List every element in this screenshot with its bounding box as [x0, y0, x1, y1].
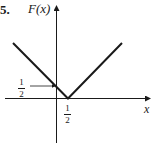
frac-numerator: 1	[19, 78, 24, 87]
x-tick-label: 1 2	[64, 104, 71, 125]
function-curve	[13, 43, 122, 99]
y-intercept-label: 1 2	[18, 78, 25, 99]
plot-area	[0, 0, 154, 143]
frac-numerator: 1	[65, 104, 70, 113]
frac-denominator: 2	[65, 116, 70, 125]
frac-denominator: 2	[19, 90, 24, 99]
